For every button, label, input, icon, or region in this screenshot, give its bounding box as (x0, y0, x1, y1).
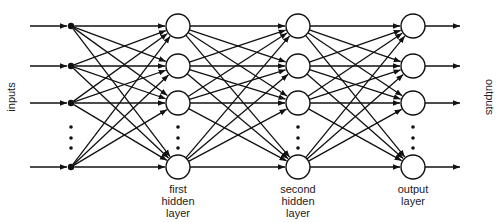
input-node (68, 23, 74, 29)
first-hidden-layer-label: hidden (161, 195, 194, 207)
second-hidden-layer-label: layer (286, 207, 310, 219)
connection-edge (74, 67, 166, 99)
input-node (68, 63, 74, 69)
output-node (401, 14, 425, 38)
second-hidden-node (286, 91, 310, 115)
second-hidden-node (286, 14, 310, 38)
first-hidden-layer-label: layer (166, 207, 190, 219)
second-hidden-node (286, 54, 310, 78)
ellipsis-dot (176, 146, 180, 150)
ellipsis-dot (69, 125, 73, 129)
ellipsis-dot (69, 136, 73, 140)
output-layer-label: layer (401, 195, 425, 207)
nodes (68, 14, 425, 179)
first-hidden-node (166, 54, 190, 78)
ellipsis-dot (176, 136, 180, 140)
ellipsis-dot (296, 136, 300, 140)
ellipsis-dot (296, 125, 300, 129)
output-node (401, 91, 425, 115)
first-hidden-node (166, 91, 190, 115)
input-node (68, 164, 74, 170)
connections (30, 26, 460, 167)
ellipsis-dot (176, 125, 180, 129)
second-hidden-node (286, 155, 310, 179)
inputs-label: inputs (5, 82, 17, 112)
ellipsis-dot (296, 146, 300, 150)
connection-edge (73, 75, 168, 165)
connection-edge (74, 70, 166, 102)
first-hidden-node (166, 14, 190, 38)
first-hidden-layer-label: first (169, 183, 187, 195)
output-node (401, 54, 425, 78)
first-hidden-node (166, 155, 190, 179)
second-hidden-layer-label: hidden (281, 195, 314, 207)
outputs-label: outputs (484, 79, 496, 116)
neural-network-diagram: inputs outputs firsthiddenlayersecondhid… (0, 0, 501, 223)
second-hidden-layer-label: second (280, 183, 315, 195)
connection-edge (74, 110, 167, 166)
output-node (401, 155, 425, 179)
ellipsis-dot (69, 146, 73, 150)
output-layer-label: output (398, 183, 429, 195)
ellipsis-dot (411, 146, 415, 150)
ellipsis-dot (411, 125, 415, 129)
input-node (68, 100, 74, 106)
ellipsis-dot (411, 136, 415, 140)
